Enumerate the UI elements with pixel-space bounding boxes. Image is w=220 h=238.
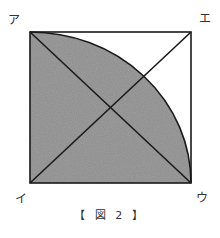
vertex-label-top-right: エ xyxy=(199,13,211,25)
vertex-label-bottom-right: ウ xyxy=(196,192,208,204)
geometry-figure xyxy=(0,0,220,238)
vertex-label-bottom-left: イ xyxy=(15,193,27,205)
figure-caption: 【 図 2 】 xyxy=(0,206,220,222)
vertex-label-top-left: ア xyxy=(8,14,20,26)
